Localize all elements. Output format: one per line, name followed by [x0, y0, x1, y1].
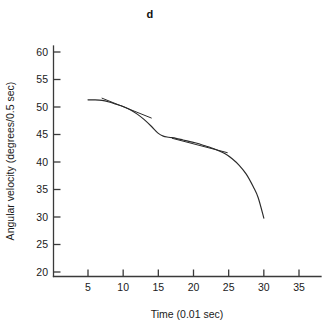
y-tick-label: 55: [36, 73, 48, 85]
x-tick-label: 20: [188, 281, 200, 293]
tangent-line-1: [102, 98, 151, 118]
tangent-line-2: [172, 138, 227, 152]
y-axis-ticks: [54, 52, 61, 272]
x-tick-label: 5: [85, 281, 91, 293]
x-tick-label: 35: [293, 281, 305, 293]
y-tick-label: 60: [36, 46, 48, 58]
y-tick-label: 45: [36, 128, 48, 140]
y-tick-label: 20: [36, 266, 48, 278]
y-tick-label: 50: [36, 101, 48, 113]
x-tick-label: 15: [152, 281, 164, 293]
x-tick-label: 25: [223, 281, 235, 293]
x-axis-title: Time (0.01 sec): [151, 308, 224, 320]
y-tick-label: 30: [36, 211, 48, 223]
y-tick-label: 40: [36, 156, 48, 168]
figure-root: d 202530354045505560 5101520253035 Time …: [0, 0, 334, 327]
x-axis-ticks: [88, 270, 299, 277]
x-tick-label: 30: [258, 281, 270, 293]
x-axis-tick-labels: 5101520253035: [85, 281, 305, 293]
angular-velocity-curve: [88, 100, 264, 218]
axes-group: [54, 46, 322, 277]
y-axis-title: Angular velocity (degrees/0.5 sec): [4, 82, 16, 241]
y-axis-tick-labels: 202530354045505560: [36, 46, 48, 278]
chart-plot-area: 202530354045505560 5101520253035 Time (0…: [0, 0, 334, 327]
y-tick-label: 25: [36, 238, 48, 250]
x-tick-label: 10: [117, 281, 129, 293]
y-tick-label: 35: [36, 183, 48, 195]
data-series-group: [88, 98, 264, 218]
